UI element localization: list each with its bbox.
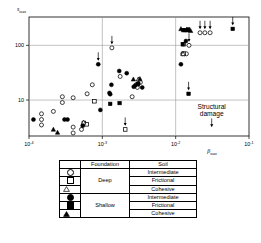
legend-symbol-square-open — [67, 177, 74, 183]
y-tick-label: 100 — [15, 42, 24, 48]
marker-circle-fill — [179, 62, 183, 66]
legend-symbol-cell — [60, 193, 81, 201]
x-tick-label: 10-1 — [244, 141, 253, 147]
marker-square-fill — [231, 27, 235, 31]
plot-frame — [29, 17, 249, 136]
marker-circle-open — [85, 92, 89, 96]
marker-square-fill — [136, 82, 140, 86]
legend-soil-cell: Cohesive — [130, 185, 197, 193]
x-tick-label: 10-2 — [171, 141, 180, 147]
legend-symbol-triangle-open — [63, 186, 77, 192]
legend-soil-cell: Frictional — [130, 202, 197, 210]
marker-circle-open — [110, 46, 114, 50]
legend-symbol-cell — [60, 177, 81, 185]
marker-square-fill — [181, 42, 185, 46]
legend-soil-cell: Frictional — [130, 177, 197, 185]
marker-circle-fill — [108, 92, 112, 96]
legend-symbol-cell — [60, 169, 81, 177]
y-tick-label: 10 — [18, 97, 24, 103]
marker-circle-fill — [96, 62, 100, 66]
marker-circle-fill — [117, 69, 121, 73]
legend-soil-cell: Intermediate — [130, 169, 197, 177]
marker-circle-open — [60, 95, 64, 99]
marker-circle-fill — [66, 118, 70, 122]
marker-square-open — [93, 99, 97, 103]
marker-circle-fill — [31, 118, 35, 122]
marker-square-fill — [187, 92, 191, 96]
marker-circle-fill — [125, 71, 129, 75]
legend-table: Foundation Soil DeepIntermediateFriction… — [59, 160, 197, 218]
marker-square-fill — [118, 101, 122, 105]
marker-circle-open — [187, 43, 191, 47]
legend-soil-cell: Intermediate — [130, 193, 197, 201]
marker-circle-open — [198, 31, 202, 35]
marker-circle-fill — [109, 83, 113, 87]
legend-row: DeepIntermediate — [60, 169, 197, 177]
x-axis-title: βmax — [206, 148, 217, 156]
legend-header-row: Foundation Soil — [60, 161, 197, 169]
marker-circle-open — [71, 125, 75, 129]
x-tick-label: 10-3 — [98, 141, 107, 147]
legend-header-foundation: Foundation — [81, 161, 130, 169]
marker-circle-open — [60, 101, 64, 105]
marker-circle-open — [80, 127, 84, 131]
legend-symbol-cell — [60, 185, 81, 193]
legend-foundation-cell: Shallow — [81, 193, 130, 218]
legend-symbol-circle-fill — [67, 194, 74, 200]
marker-circle-open — [39, 123, 43, 127]
marker-circle-open — [208, 31, 212, 35]
legend-symbol-circle-open — [67, 169, 74, 175]
legend-header-soil: Soil — [130, 161, 197, 169]
legend-soil-cell: Cohesive — [130, 210, 197, 218]
marker-circle-open — [39, 112, 43, 116]
marker-square-fill — [108, 102, 112, 106]
marker-circle-open — [39, 118, 43, 122]
y-axis-title: smax — [17, 6, 26, 14]
marker-circle-open — [118, 74, 122, 78]
marker-square-open — [123, 128, 127, 132]
legend-symbol-cell — [60, 210, 81, 218]
marker-circle-open — [51, 109, 55, 113]
legend-row: ShallowIntermediate — [60, 193, 197, 201]
marker-circle-open — [90, 83, 94, 87]
legend-foundation-cell: Deep — [81, 169, 130, 194]
marker-circle-fill — [140, 85, 144, 89]
legend-symbol-square-fill — [67, 202, 74, 208]
marker-circle-open — [203, 31, 207, 35]
legend-body: DeepIntermediateFrictionalCohesiveShallo… — [60, 169, 197, 218]
figure-container: 10010smax10-410-310-210-1βmaxStructurald… — [0, 0, 261, 243]
legend-symbol-triangle-fill — [63, 211, 77, 217]
annotation-structural-damage: damage — [200, 110, 224, 118]
legend-container: Foundation Soil DeepIntermediateFriction… — [59, 160, 197, 218]
legend-symbol-cell — [60, 202, 81, 210]
x-tick-label: 10-4 — [24, 141, 33, 147]
marker-circle-fill — [98, 108, 102, 112]
marker-circle-open — [71, 96, 75, 100]
marker-circle-open — [130, 95, 134, 99]
marker-circle-open — [71, 131, 75, 135]
legend-header-symbol — [60, 161, 81, 169]
marker-circle-fill — [81, 124, 85, 128]
scatter-plot: 10010smax10-410-310-210-1βmaxStructurald… — [0, 0, 261, 160]
